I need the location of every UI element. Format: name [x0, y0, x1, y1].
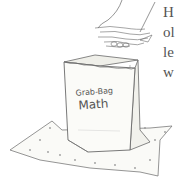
body-text-fragments: H ol le w	[163, 2, 182, 82]
text-line: le	[163, 42, 182, 62]
text-line: H	[163, 2, 182, 22]
text-line: ol	[163, 22, 182, 42]
bag-label: Grab-Bag Math	[75, 85, 127, 112]
hand-and-pasta	[95, 0, 155, 47]
text-line: w	[163, 62, 182, 82]
